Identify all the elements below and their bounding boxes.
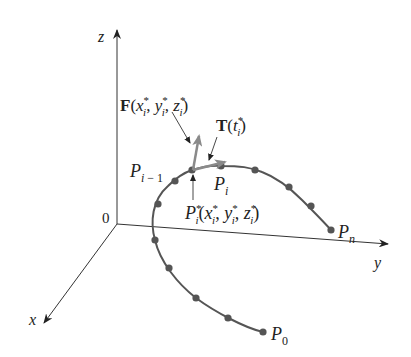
point-label-P-i: Pi [213, 174, 228, 198]
sample-point-label: P*i(x*i, y*i, z*i) [184, 202, 259, 226]
space-curve [153, 166, 331, 332]
partition-points [151, 162, 334, 335]
curve-point [151, 236, 158, 243]
point-label-P-i-minus-1: Pi − 1 [129, 161, 163, 185]
curve-point [224, 314, 231, 321]
force-label: F(x*i, y*i, z*i) [120, 94, 188, 118]
curve-point [192, 294, 199, 301]
x-axis-label: x [28, 311, 36, 328]
curve-point [171, 177, 178, 184]
x-axis [44, 224, 117, 323]
origin-label: 0 [102, 210, 110, 226]
curve-point [307, 202, 314, 209]
curve-point [154, 200, 161, 207]
point-Pn [327, 226, 334, 233]
pointer-to-T [209, 137, 217, 160]
line-integral-diagram: z y x 0 F(x*i, y*i, z*i) T(t*i) Pi − 1 [0, 0, 411, 357]
point-P0 [259, 328, 266, 335]
curve-point [285, 183, 292, 190]
point-label-P0: P0 [270, 324, 288, 348]
z-axis-label: z [97, 28, 105, 45]
force-vector-F [193, 136, 199, 170]
y-axis-label: y [372, 254, 382, 272]
curve-point [251, 166, 258, 173]
point-label-Pn: Pn [337, 222, 355, 246]
curve-point [165, 264, 172, 271]
tangent-label: T(t*i) [216, 114, 246, 138]
